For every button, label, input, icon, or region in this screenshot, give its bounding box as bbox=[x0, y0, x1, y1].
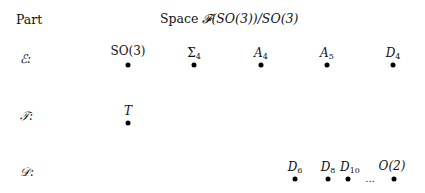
node-dot-sigma4 bbox=[192, 63, 197, 68]
node-label-d10: D10 bbox=[340, 160, 360, 175]
ellipsis: ... bbox=[365, 173, 375, 184]
node-label-t: T bbox=[124, 104, 132, 118]
row-label-d: 𝒟: bbox=[20, 165, 34, 179]
space-header-prefix: Space bbox=[160, 11, 202, 26]
node-label-d4: D4 bbox=[386, 46, 401, 61]
node-dot-d10 bbox=[346, 177, 351, 182]
row-label-t: 𝒯: bbox=[20, 109, 33, 123]
row-label-e: ℰ: bbox=[20, 52, 31, 66]
node-dot-a4 bbox=[259, 63, 264, 68]
node-label-o2: O(2) bbox=[379, 159, 406, 173]
node-label-a5: A5 bbox=[320, 46, 334, 61]
part-header: Part bbox=[16, 12, 42, 27]
node-dot-o2 bbox=[392, 177, 397, 182]
node-label-sigma4: Σ4 bbox=[187, 46, 201, 61]
node-dot-d8 bbox=[326, 177, 331, 182]
node-label-d8: D8 bbox=[321, 160, 336, 175]
node-label-so3: SO(3) bbox=[110, 44, 145, 58]
node-label-d6: D6 bbox=[288, 160, 303, 175]
node-dot-so3 bbox=[126, 63, 131, 68]
node-dot-a5 bbox=[325, 63, 330, 68]
node-dot-d4 bbox=[391, 63, 396, 68]
node-dot-d6 bbox=[293, 177, 298, 182]
node-label-a4: A4 bbox=[254, 46, 268, 61]
space-header: Space 𝓕(SO(3))/SO(3) bbox=[160, 11, 298, 27]
node-dot-t bbox=[126, 121, 131, 126]
space-header-math: 𝓕(SO(3))/SO(3) bbox=[202, 11, 298, 26]
